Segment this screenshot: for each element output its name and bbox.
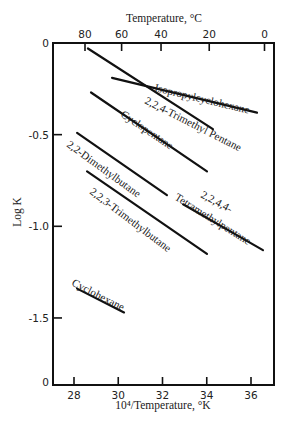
x-tick-label: 34 (200, 389, 214, 401)
y-tick-label: -1.0 (29, 220, 50, 232)
y-tick-label: 0 (42, 37, 49, 49)
x-tick-label: 30 (112, 389, 125, 401)
top-x-tick-label: 80 (78, 28, 91, 40)
y-bottom-label: 0 (42, 376, 49, 388)
top-x-tick-label: 60 (115, 28, 128, 40)
series-line-2-2-3-trimethylbutane (87, 171, 207, 253)
label-cyclohexane: Cyclohexane (70, 276, 127, 313)
y-axis-title: Log K (11, 196, 24, 226)
x-tick-label: 36 (244, 389, 258, 401)
y-tick-label: -1.5 (29, 312, 50, 324)
log-k-vs-inverse-temperature-chart: Temperature, °C 10⁴/Temperature, °K Log … (0, 0, 289, 425)
top-axis-title: Temperature, °C (126, 12, 202, 25)
y-tick-label: -0.5 (29, 129, 50, 141)
x-tick-label: 32 (156, 389, 169, 401)
x-tick-label: 28 (67, 389, 80, 401)
top-x-tick-label: 40 (154, 28, 167, 40)
label-22-dimethylbutane: 2,2-Dimethylbutane (65, 138, 144, 200)
top-x-tick-label: 0 (261, 28, 268, 40)
top-x-tick-label: 20 (203, 28, 216, 40)
